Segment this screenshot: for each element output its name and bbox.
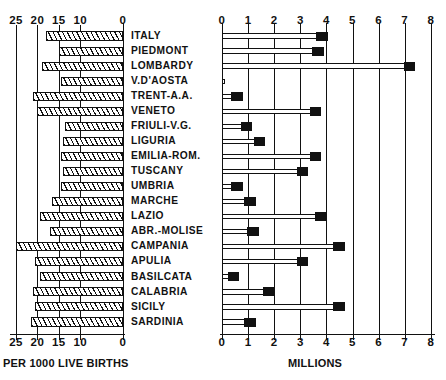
right-bar-veneto: [222, 109, 321, 114]
left-bar-friuli-v-g: [65, 122, 123, 131]
right-bar-cap-friuli-v-g: [241, 122, 253, 131]
category-label-basilcata: BASILCATA: [131, 272, 192, 282]
right-bar-cap-emilia-rom: [310, 152, 322, 161]
right-gridline-2: [274, 23, 275, 336]
category-label-italy: ITALY: [131, 31, 161, 41]
right-bar-cap-abr-molise: [247, 227, 259, 236]
left-bar-italy: [46, 31, 123, 40]
right-bar-cap-sicily: [333, 302, 345, 311]
right-bar-lazio: [222, 214, 326, 219]
chart-figure: 252015100 252015100 012345678 012345678 …: [0, 0, 446, 380]
left-bar-piedmont: [59, 47, 123, 56]
right-bar-cap-apulia: [297, 257, 309, 266]
category-label-abr-molise: ABR.-MOLISE: [131, 226, 203, 236]
right-bar-v-d-aosta: [222, 79, 225, 84]
category-label-veneto: VENETO: [131, 106, 175, 116]
right-bar-cap-campania: [333, 242, 345, 251]
right-bar-italy: [222, 33, 328, 38]
right-bar-emilia-rom: [222, 154, 321, 159]
right-bar-cap-trent-a-a: [231, 92, 243, 101]
left-bar-calabria: [33, 287, 123, 296]
category-label-piedmont: PIEDMONT: [131, 46, 188, 56]
right-bar-tuscany: [222, 169, 308, 174]
category-label-sardinia: SARDINIA: [131, 317, 184, 327]
category-label-lazio: LAZIO: [131, 211, 164, 221]
category-label-friuli-v-g: FRIULI-V.G.: [131, 121, 192, 131]
left-bar-emilia-rom: [61, 152, 123, 161]
category-label-umbria: UMBRIA: [131, 181, 174, 191]
right-bar-campania: [222, 244, 345, 249]
right-bar-cap-italy: [316, 32, 328, 41]
left-bar-v-d-aosta: [61, 77, 123, 86]
right-bar-cap-veneto: [310, 107, 322, 116]
right-bar-cap-tuscany: [297, 167, 309, 176]
left-bar-marche: [52, 197, 123, 206]
category-label-liguria: LIGURIA: [131, 136, 176, 146]
category-label-v-d-aosta: V.D'AOSTA: [131, 76, 188, 86]
category-label-sicily: SICILY: [131, 302, 166, 312]
left-axis-baseline: [10, 334, 125, 335]
right-bar-cap-marche: [244, 197, 256, 206]
right-gridline-8: [431, 23, 432, 336]
left-bar-veneto: [37, 107, 123, 116]
right-bar-cap-basilcata: [228, 272, 240, 281]
right-bar-cap-piedmont: [312, 47, 324, 56]
left-bar-apulia: [35, 257, 123, 266]
left-axis-caption: PER 1000 LIVE BIRTHS: [3, 357, 129, 369]
left-bar-liguria: [63, 137, 123, 146]
left-bar-sardinia: [31, 317, 123, 326]
left-bar-lombardy: [42, 62, 123, 71]
right-bar-cap-calabria: [263, 287, 275, 296]
right-gridline-5: [353, 23, 354, 336]
right-axis-baseline: [220, 334, 435, 335]
category-label-emilia-rom: EMILIA-ROM.: [131, 151, 200, 161]
right-axis-caption: MILLIONS: [288, 357, 342, 369]
category-label-campania: CAMPANIA: [131, 241, 189, 251]
right-bar-apulia: [222, 259, 308, 264]
right-bar-piedmont: [222, 48, 324, 53]
left-bar-sicily: [35, 302, 123, 311]
left-bar-abr-molise: [50, 227, 123, 236]
left-gridline-25: [16, 25, 17, 334]
right-bar-sicily: [222, 304, 345, 309]
right-gridline-6: [379, 23, 380, 336]
right-gridline-3: [300, 23, 301, 336]
right-bar-cap-lombardy: [404, 62, 416, 71]
category-label-trent-a-a: TRENT-A.A.: [131, 91, 193, 101]
category-label-lombardy: LOMBARDY: [131, 61, 193, 71]
left-bar-lazio: [40, 212, 124, 221]
left-bar-campania: [16, 242, 123, 251]
category-label-calabria: CALABRIA: [131, 287, 188, 297]
right-bar-cap-lazio: [315, 212, 327, 221]
left-bar-basilcata: [40, 272, 124, 281]
category-label-apulia: APULIA: [131, 256, 172, 266]
left-bar-trent-a-a: [33, 92, 123, 101]
category-label-tuscany: TUSCANY: [131, 166, 183, 176]
right-gridline-4: [326, 23, 327, 336]
right-bar-lombardy: [222, 63, 415, 68]
left-bar-tuscany: [63, 167, 123, 176]
right-bar-cap-umbria: [231, 182, 243, 191]
right-bar-cap-sardinia: [244, 318, 256, 327]
right-bar-cap-liguria: [254, 137, 266, 146]
category-label-marche: MARCHE: [131, 196, 178, 206]
left-bar-umbria: [61, 182, 123, 191]
